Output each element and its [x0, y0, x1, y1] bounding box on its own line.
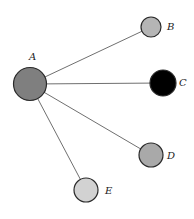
node-c [150, 70, 176, 96]
node-label-e: E [104, 185, 113, 196]
edge-a-e [30, 84, 86, 190]
node-b [141, 17, 161, 37]
nodes-group [14, 17, 177, 202]
node-d [139, 143, 163, 167]
edge-a-c [30, 83, 163, 84]
edges-group [30, 27, 163, 190]
node-label-d: D [166, 150, 175, 161]
node-e [74, 178, 98, 202]
node-label-a: A [28, 51, 36, 62]
edge-a-d [30, 84, 151, 155]
node-a [14, 68, 47, 101]
node-label-b: B [166, 21, 174, 32]
edge-a-b [30, 27, 151, 84]
node-label-c: C [179, 77, 187, 88]
star-graph-diagram: ABCDE [0, 0, 194, 219]
